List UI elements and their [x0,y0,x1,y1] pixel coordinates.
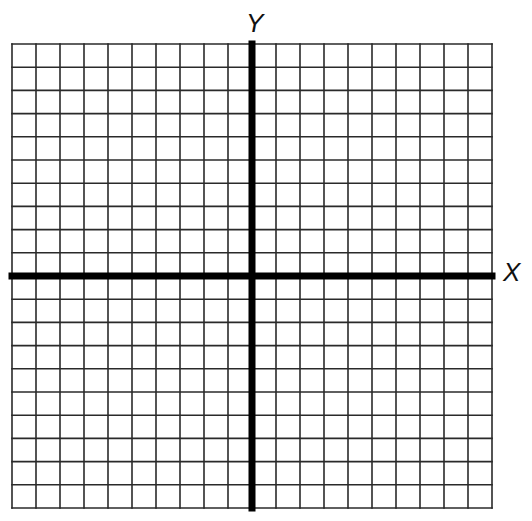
y-axis-label: Y [246,10,263,36]
grid-svg [0,0,532,521]
x-axis-label: X [503,259,520,285]
